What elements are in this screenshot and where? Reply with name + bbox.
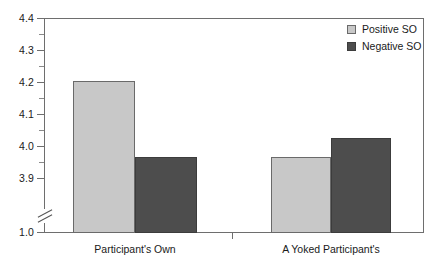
y-tick-4.1	[37, 114, 44, 115]
y-axis-label-3.9: 3.9	[0, 173, 34, 184]
y-tick-3.9	[37, 178, 44, 179]
y-tick-minor-4.25	[39, 66, 44, 67]
y-tick-1.0	[37, 232, 44, 233]
y-axis-label-4.1: 4.1	[0, 109, 34, 120]
bar-negative-yoked-participants	[331, 138, 391, 233]
legend-label-negative: Negative SO	[362, 41, 422, 52]
y-tick-minor-4.35	[39, 34, 44, 35]
y-tick-4.2	[37, 82, 44, 83]
y-tick-minor-4.05	[39, 130, 44, 131]
bar-positive-participants-own	[73, 81, 135, 233]
y-tick-4.4	[37, 18, 44, 19]
x-axis-label-participants-own: Participant's Own	[55, 244, 215, 256]
y-tick-minor-3.95	[39, 162, 44, 163]
y-axis-label-4.0: 4.0	[0, 141, 34, 152]
y-axis-label-1.0: 1.0	[0, 227, 34, 238]
y-tick-4.3	[37, 50, 44, 51]
x-tick-divider	[232, 233, 233, 239]
legend-item-positive: Positive SO	[347, 22, 422, 37]
legend-swatch-positive-icon	[347, 25, 356, 34]
y-axis-label-4.4: 4.4	[0, 13, 34, 24]
bar-negative-participants-own	[135, 157, 197, 233]
legend-swatch-negative-icon	[347, 42, 356, 51]
y-axis-break-icon	[37, 208, 53, 224]
y-axis-label-4.2: 4.2	[0, 77, 34, 88]
legend-label-positive: Positive SO	[362, 24, 417, 35]
y-tick-minor-4.15	[39, 98, 44, 99]
x-axis-label-yoked-participants: A Yoked Participant's	[250, 244, 412, 256]
y-axis-label-4.3: 4.3	[0, 45, 34, 56]
chart-legend: Positive SO Negative SO	[347, 22, 422, 56]
legend-item-negative: Negative SO	[347, 39, 422, 54]
y-tick-4.0	[37, 146, 44, 147]
bar-chart: 4.4 4.3 4.2 4.1 4.0 3.9 1.0 Participant'…	[0, 0, 445, 278]
bar-positive-yoked-participants	[271, 157, 331, 233]
